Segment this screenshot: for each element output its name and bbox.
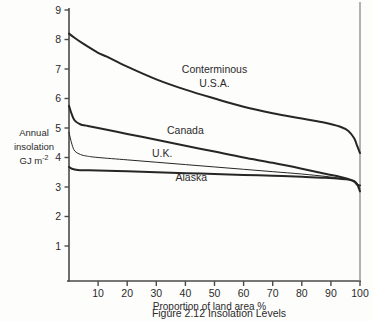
curve-label: U.K. bbox=[152, 147, 172, 159]
y-tick-label: 5 bbox=[55, 122, 61, 134]
x-tick-label: 90 bbox=[325, 287, 337, 299]
curve-label: Canada bbox=[167, 124, 204, 136]
x-tick-label: 10 bbox=[92, 287, 104, 299]
curve-label: Alaska bbox=[175, 171, 207, 183]
y-tick-label: 1 bbox=[55, 240, 61, 252]
y-axis-title-line: Annual bbox=[19, 127, 49, 138]
y-axis-title-exponent: -2 bbox=[42, 154, 48, 161]
x-tick-label: 80 bbox=[296, 287, 308, 299]
series-line-u-k bbox=[69, 132, 360, 188]
curve-label: Conterminous bbox=[182, 63, 247, 75]
y-axis-title-line: GJ m-2 bbox=[20, 154, 49, 166]
series-line-canada bbox=[69, 106, 360, 192]
series-line-alaska bbox=[69, 167, 360, 186]
series-line-conterminous-u-s-a bbox=[69, 34, 360, 153]
y-axis-title-line: insolation bbox=[14, 141, 54, 152]
x-tick-label: 60 bbox=[238, 287, 250, 299]
y-tick-label: 8 bbox=[55, 33, 61, 45]
x-tick-label: 30 bbox=[150, 287, 162, 299]
y-tick-label: 9 bbox=[55, 4, 61, 16]
y-tick-label: 7 bbox=[55, 63, 61, 75]
curve-label: U.S.A. bbox=[199, 77, 229, 89]
x-tick-label: 20 bbox=[121, 287, 133, 299]
x-tick-label: 50 bbox=[209, 287, 221, 299]
y-tick-label: 4 bbox=[55, 151, 61, 163]
x-tick-label: 100 bbox=[351, 287, 369, 299]
figure-caption: Figure 2.12 Insolation Levels bbox=[152, 307, 286, 319]
y-tick-label: 3 bbox=[55, 181, 61, 193]
x-tick-label: 40 bbox=[180, 287, 192, 299]
insolation-levels-figure: 123456789102030405060708090100Contermino… bbox=[0, 0, 373, 321]
y-tick-label: 6 bbox=[55, 92, 61, 104]
y-tick-label: 2 bbox=[55, 210, 61, 222]
x-tick-label: 70 bbox=[267, 287, 279, 299]
